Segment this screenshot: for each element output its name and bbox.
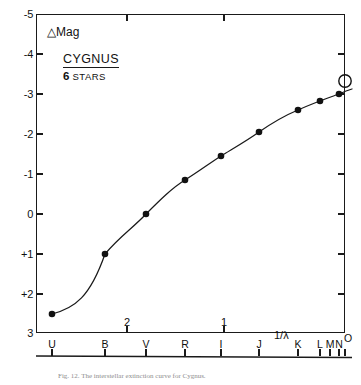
data-point-r [182, 177, 189, 184]
y-axis-ticks [36, 54, 43, 294]
data-point-n [336, 91, 343, 98]
data-point-u [49, 311, 56, 318]
data-point-k [295, 107, 302, 114]
data-point-b [102, 251, 109, 258]
data-point-v [143, 211, 150, 218]
data-point-i [218, 153, 225, 160]
plot-vector-layer [0, 0, 361, 385]
extinction-curve-line [52, 89, 352, 314]
bottom-axis-numeric-ticks [127, 326, 224, 333]
top-axis-ticks [127, 14, 224, 21]
data-point-l [317, 98, 324, 105]
figure-caption: Fig. 12. The interstellar extinction cur… [58, 372, 358, 381]
band-tick-marks [52, 349, 345, 356]
data-point-o-open-circle [339, 75, 351, 87]
data-point-j [256, 129, 263, 136]
extinction-curve-figure: -5 -4 -3 -2 -1 0 +1 +2 3 2 1 U B V R I J… [0, 0, 361, 385]
right-axis-ticks [338, 54, 345, 294]
band-axis-line [36, 356, 352, 358]
